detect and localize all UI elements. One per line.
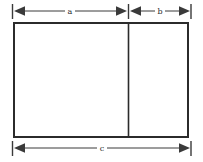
dimension-a: a bbox=[14, 6, 127, 16]
arrowhead-b-right bbox=[179, 6, 190, 16]
outer-rectangle bbox=[14, 23, 188, 137]
dimension-diagram: a b c bbox=[0, 0, 203, 162]
dimension-label-c: c bbox=[100, 144, 105, 153]
diagram-canvas: a b c bbox=[0, 0, 203, 162]
dimension-label-b: b bbox=[157, 7, 162, 16]
dimension-c: c bbox=[14, 143, 190, 153]
arrowhead-a-right bbox=[116, 6, 127, 16]
arrowhead-c-right bbox=[179, 143, 190, 153]
dimension-b: b bbox=[130, 6, 190, 16]
dimension-label-a: a bbox=[68, 7, 73, 16]
